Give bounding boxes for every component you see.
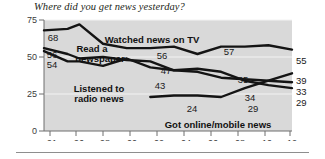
x-tick-06: 06 [208, 138, 218, 141]
x-tick-labels: 91 96 98 00 02 04 06 08 10 12 [47, 138, 297, 141]
end-value-label: 39 [296, 75, 307, 86]
point-value-label: 34 [245, 92, 256, 103]
end-value-label: 33 [296, 86, 307, 97]
point-value-label: 56 [157, 50, 168, 61]
y-tick-0: 0 [32, 126, 37, 136]
point-value-label: 35 [238, 74, 249, 85]
point-value-label: 68 [48, 32, 59, 43]
chart-area: 75 50 25 0 91 96 [0, 16, 325, 136]
point-value-label: 43 [155, 80, 166, 91]
end-value-label: 55 [296, 55, 307, 66]
point-value-label: 54 [47, 59, 58, 70]
x-tick-10: 10 [262, 138, 272, 141]
x-tick-02: 02 [154, 138, 164, 141]
bottom-rule [16, 152, 309, 153]
y-tick-75: 75 [27, 16, 37, 25]
tv-label: Watched news on TV [105, 34, 200, 45]
point-value-label: 57 [224, 46, 235, 57]
end-value-label: 29 [296, 97, 307, 108]
chart-page: Where did you get news yesterday? 75 [0, 0, 325, 159]
chart-title: Where did you get news yesterday? [34, 1, 274, 12]
line-chart-svg: 75 50 25 0 91 96 [0, 16, 325, 141]
x-tick-96: 96 [74, 138, 84, 141]
x-tick-91: 91 [47, 138, 57, 141]
point-value-label: 47 [161, 65, 172, 76]
point-value-label: 24 [187, 103, 198, 114]
point-value-label: 29 [248, 103, 259, 114]
radio-label-2: radio news [74, 93, 124, 104]
x-tick-04: 04 [181, 138, 191, 141]
x-axis [44, 131, 292, 136]
y-axis [39, 20, 44, 131]
y-tick-50: 50 [27, 52, 37, 62]
newspaper-label-2: newspaper [75, 53, 125, 64]
x-tick-00: 00 [127, 138, 137, 141]
x-tick-12: 12 [287, 138, 297, 141]
end-value-labels: 55393329 [296, 55, 307, 108]
x-tick-98: 98 [100, 138, 110, 141]
y-tick-25: 25 [27, 89, 37, 99]
x-tick-08: 08 [235, 138, 245, 141]
online-label: Got online/mobile news [165, 119, 272, 130]
y-tick-labels: 75 50 25 0 [27, 16, 37, 136]
